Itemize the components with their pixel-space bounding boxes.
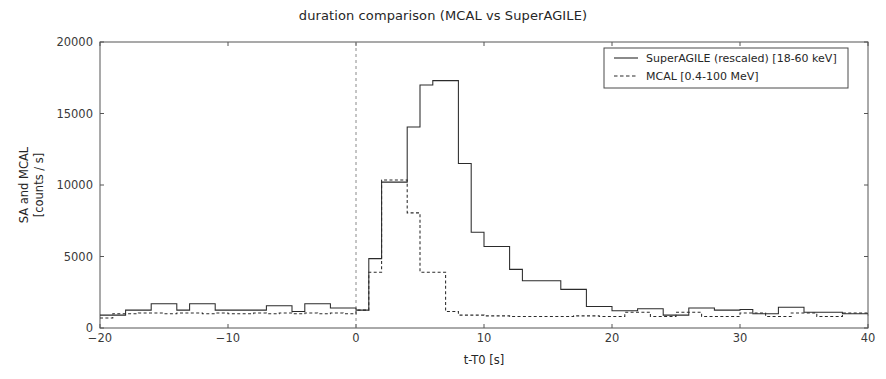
x-tick-label: −10 [216,331,240,345]
y-axis-title: SA and MCAL[counts / s] [17,146,46,223]
x-tick-label: 20 [605,331,620,345]
x-tick-label: 40 [861,331,876,345]
data-series-group [100,81,868,318]
y-tick-label: 10000 [56,178,93,192]
series-mcal-line [100,180,868,318]
y-tick-label: 15000 [56,107,93,121]
y-tick-label: 20000 [56,35,93,49]
figure-canvas: duration comparison (MCAL vs SuperAGILE)… [0,0,886,379]
y-axis-title-line1: SA and MCAL [17,146,31,223]
x-tick-label: 30 [733,331,748,345]
x-tick-label: 0 [352,331,359,345]
legend-label: SuperAGILE (rescaled) [18-60 keV] [646,52,837,65]
y-tick-label: 5000 [64,250,93,264]
legend[interactable]: SuperAGILE (rescaled) [18-60 keV]MCAL [0… [604,48,848,88]
x-axis-title: t-T0 [s] [464,353,505,367]
legend-label: MCAL [0.4-100 MeV] [646,70,759,83]
y-axis-title-line2: [counts / s] [32,153,46,218]
y-tick-label: 0 [86,321,93,335]
x-tick-label: 10 [477,331,492,345]
series-superagile-line [100,81,868,316]
plot-area: −20−1001020304005000100001500020000 Supe… [0,0,886,379]
